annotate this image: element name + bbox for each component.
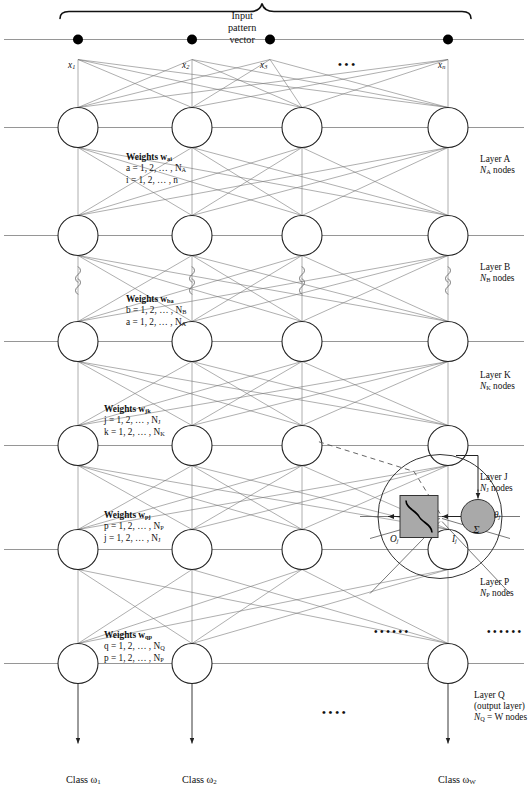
layer-k-node — [428, 321, 468, 361]
inset-ellipsis-in: • • • • • • — [487, 625, 521, 637]
inset-net-input-label: Ij — [452, 533, 457, 544]
class-label-1: Class ω1 — [66, 773, 101, 786]
layer-b-label: Layer B NB nodes — [480, 261, 514, 284]
inset-output-label: Oj — [390, 533, 398, 544]
input-vector-caption: Input pattern vector — [228, 9, 256, 46]
layer-p-node — [172, 529, 212, 569]
layer-a-node — [282, 107, 322, 147]
layer-k-node — [58, 321, 98, 361]
layer-j-node — [58, 425, 98, 465]
layer-j-node — [282, 425, 322, 465]
weights-qp-label: Weights wqp q = 1, 2, … , NQ p = 1, 2, …… — [104, 629, 165, 663]
class-label-w: Class ωW — [438, 773, 476, 786]
layer-q-node — [58, 643, 98, 683]
inset-theta-label: θj — [494, 509, 500, 520]
figure-page: Class ω1 Class ω2 Class ωW • • • • Layer… — [0, 0, 528, 801]
layer-q-label: Layer Q (output layer) NQ = W nodes — [474, 689, 527, 723]
input-label-xn: xn — [438, 59, 445, 70]
weights-pj-label: Weights wpj p = 1, 2, … , NP j = 1, 2, …… — [104, 509, 164, 543]
layer-q-node — [172, 643, 212, 683]
output-arrows — [78, 683, 448, 743]
layer-a-node — [172, 107, 212, 147]
input-label-x3: x3 — [260, 59, 267, 70]
input-node-dot — [265, 34, 275, 44]
input-node-dot — [73, 34, 83, 44]
layer-a-label: Layer A NA nodes — [480, 153, 515, 176]
input-label-x2: x2 — [182, 59, 189, 70]
class-label-2: Class ω2 — [182, 773, 217, 786]
layer-a-node — [58, 107, 98, 147]
layer-b-node — [58, 215, 98, 255]
input-label-x1: x1 — [68, 59, 75, 70]
layer-a-node — [428, 107, 468, 147]
input-node-dot — [187, 34, 197, 44]
output-ellipsis: • • • • — [322, 705, 346, 718]
input-ellipsis: • • • — [338, 57, 355, 70]
inset-sigma-label: Σ — [473, 522, 480, 535]
layer-k-label: Layer K NK nodes — [480, 369, 515, 392]
layer-p-node — [282, 529, 322, 569]
layer-p-label: Layer P NP nodes — [480, 576, 514, 599]
input-node-dot — [443, 34, 453, 44]
weights-ba-label: Weights wba b = 1, 2, … , NB a = 1, 2, …… — [126, 293, 186, 327]
layer-q-node — [428, 643, 468, 683]
layer-k-node — [282, 321, 322, 361]
layer-j-label: Layer J NJ nodes — [480, 471, 513, 494]
network-figure: Class ω1 Class ω2 Class ωW • • • • Layer… — [0, 0, 528, 801]
input-brace — [60, 3, 471, 18]
layer-b-node — [172, 215, 212, 255]
layer-j-node — [172, 425, 212, 465]
inset-ellipsis-out: • • • • • • — [374, 625, 408, 637]
weights-ai-label: Weights wai a = 1, 2, … , NA i = 1, 2, …… — [126, 151, 186, 185]
layer-p-node — [58, 529, 98, 569]
layer-b-node — [282, 215, 322, 255]
layer-b-node — [428, 215, 468, 255]
weights-jk-label: Weights wjk j = 1, 2, … , NJ k = 1, 2, …… — [104, 403, 165, 437]
